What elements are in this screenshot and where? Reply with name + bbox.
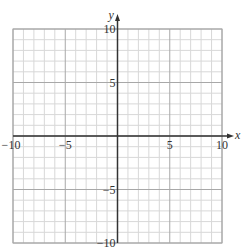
y-axis-label: y bbox=[108, 8, 115, 22]
x-tick-label: −5 bbox=[59, 138, 72, 152]
y-tick-label: −10 bbox=[97, 236, 116, 250]
y-axis-arrow-icon bbox=[115, 14, 120, 21]
x-axis-label: x bbox=[234, 128, 241, 142]
x-tick-label: 10 bbox=[216, 138, 228, 152]
y-tick-label: 10 bbox=[104, 22, 116, 36]
y-tick-label: −5 bbox=[103, 183, 116, 197]
y-tick-label: 5 bbox=[110, 76, 116, 90]
x-axis-arrow-icon bbox=[227, 134, 234, 139]
plot-area: −10−5510105−5−10 x y bbox=[0, 0, 243, 251]
x-tick-label: 5 bbox=[167, 138, 173, 152]
x-tick-label: −10 bbox=[2, 138, 21, 152]
